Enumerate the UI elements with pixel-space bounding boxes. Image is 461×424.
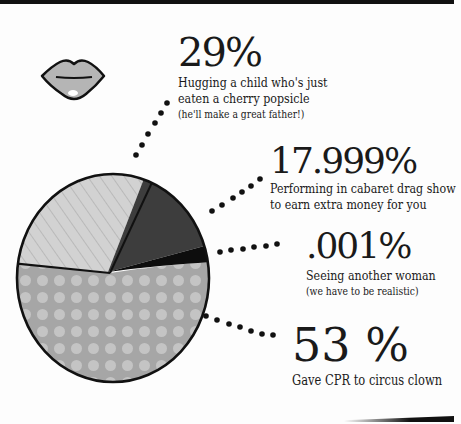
label-hug-line1: Hugging a child who's just	[178, 74, 328, 90]
label-hug-line2: eaten a cherry popsicle	[178, 90, 328, 106]
label-hug-pct: 29%	[178, 32, 360, 72]
leader-cpr	[203, 313, 276, 338]
lips-icon	[42, 60, 104, 99]
leader-drag	[209, 176, 263, 214]
leader-hug	[133, 100, 170, 158]
label-other-line1: Seeing another woman	[306, 267, 436, 283]
label-hug: 29% Hugging a child who's just eaten a c…	[178, 32, 360, 121]
label-hug-note: (he'll make a great father!)	[178, 107, 324, 121]
label-other-note: (we have to be realistic)	[306, 284, 433, 298]
label-cpr-line1: Gave CPR to circus clown	[292, 372, 442, 388]
leader-other	[217, 241, 280, 255]
label-cpr-pct: 53 %	[292, 322, 461, 368]
label-drag-line1: Performing in cabaret drag show	[270, 180, 456, 196]
label-drag-line2: to earn extra money for you	[270, 196, 456, 212]
label-drag: 17.999% Performing in cabaret drag show …	[270, 143, 461, 212]
label-drag-pct: 17.999%	[270, 143, 461, 179]
label-cpr: 53 % Gave CPR to circus clown	[292, 322, 461, 388]
slice-cpr	[0, 262, 215, 400]
label-other: .001% Seeing another woman (we have to b…	[306, 228, 461, 298]
label-other-pct: .001%	[306, 228, 461, 264]
